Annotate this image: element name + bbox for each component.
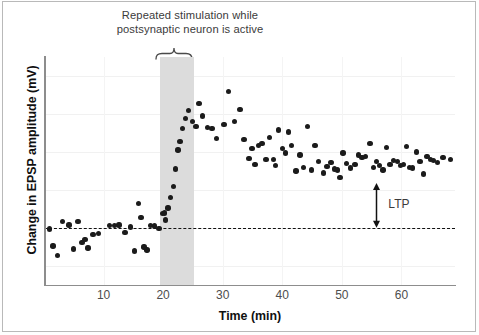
- stimulation-caption: Repeated stimulation while postsynaptic …: [60, 8, 320, 36]
- data-point: [226, 89, 231, 94]
- data-point: [259, 141, 264, 146]
- data-point: [401, 162, 406, 167]
- data-point: [47, 226, 52, 231]
- data-point: [263, 157, 268, 162]
- data-point: [246, 156, 251, 161]
- gridline-vertical: [342, 57, 343, 285]
- x-tick-label: 50: [325, 288, 359, 302]
- data-point: [267, 135, 272, 140]
- data-point: [196, 101, 201, 106]
- data-point: [293, 168, 298, 173]
- data-point: [305, 124, 310, 129]
- gridline-vertical: [104, 57, 105, 285]
- data-point: [340, 150, 345, 155]
- gridline-horizontal: [44, 152, 455, 153]
- data-point: [232, 119, 237, 124]
- data-point: [221, 122, 226, 127]
- data-point: [165, 205, 170, 210]
- data-point: [82, 237, 87, 242]
- data-point: [273, 163, 278, 168]
- data-point: [60, 219, 65, 224]
- data-point: [271, 157, 276, 162]
- data-point: [276, 127, 281, 132]
- data-point: [301, 165, 306, 170]
- data-point: [417, 159, 422, 164]
- data-point: [136, 201, 141, 206]
- baseline-dashed-line: [44, 228, 455, 229]
- x-tick-label: 30: [206, 288, 240, 302]
- data-point: [162, 210, 167, 215]
- data-point: [55, 253, 60, 258]
- data-point: [404, 144, 409, 149]
- data-point: [128, 224, 133, 229]
- data-point: [241, 137, 246, 142]
- data-point: [163, 217, 168, 222]
- data-point: [171, 184, 176, 189]
- data-point: [237, 107, 242, 112]
- data-point: [316, 159, 321, 164]
- data-point: [421, 171, 426, 176]
- gridline-horizontal: [44, 76, 455, 77]
- data-point: [440, 155, 445, 160]
- data-point: [50, 243, 55, 248]
- data-point: [193, 124, 198, 129]
- data-point: [138, 215, 143, 220]
- data-point: [337, 175, 342, 180]
- data-point: [321, 170, 326, 175]
- data-point: [249, 146, 254, 151]
- data-point: [177, 139, 182, 144]
- gridline-vertical: [282, 57, 283, 285]
- data-point: [335, 167, 340, 172]
- gridline-horizontal: [44, 114, 455, 115]
- data-point: [312, 143, 317, 148]
- data-point: [380, 167, 385, 172]
- data-point: [435, 160, 440, 165]
- data-point: [367, 141, 372, 146]
- data-point: [90, 232, 95, 237]
- x-axis-title: Time (min): [44, 309, 456, 323]
- data-point: [309, 167, 314, 172]
- data-point: [289, 143, 294, 148]
- ltp-arrow-icon: [370, 183, 383, 228]
- data-point: [410, 165, 415, 170]
- data-point: [371, 165, 376, 170]
- plot-area: [44, 57, 455, 285]
- data-point: [75, 219, 80, 224]
- ltp-label: LTP: [388, 197, 409, 211]
- data-point: [85, 245, 90, 250]
- gridline-horizontal: [44, 190, 455, 191]
- data-point: [71, 246, 76, 251]
- x-axis-line: [44, 285, 456, 287]
- y-axis-title: Change in EPSP amplitude (mV): [25, 40, 39, 280]
- data-point: [175, 147, 180, 152]
- data-point: [96, 231, 101, 236]
- data-point: [132, 248, 137, 253]
- data-point: [252, 162, 257, 167]
- data-point: [144, 247, 149, 252]
- x-tick-label: 60: [384, 288, 418, 302]
- data-point: [283, 150, 288, 155]
- data-point: [66, 222, 71, 227]
- data-point: [352, 162, 357, 167]
- x-tick-label: 40: [265, 288, 299, 302]
- data-point: [122, 230, 127, 235]
- data-point: [414, 149, 419, 154]
- y-axis-line: [44, 56, 46, 286]
- data-point: [200, 113, 205, 118]
- data-point: [328, 160, 333, 165]
- x-tick-label: 10: [87, 288, 121, 302]
- gridline-vertical: [401, 57, 402, 285]
- gridline-vertical: [223, 57, 224, 285]
- x-tick-label: 20: [146, 288, 180, 302]
- data-point: [363, 154, 368, 159]
- data-point: [448, 157, 453, 162]
- data-point: [297, 152, 302, 157]
- data-point: [286, 129, 291, 134]
- gridline-horizontal: [44, 266, 455, 267]
- data-point: [156, 226, 161, 231]
- data-point: [209, 126, 214, 131]
- data-point: [116, 222, 121, 227]
- data-point: [384, 145, 389, 150]
- data-point: [214, 136, 219, 141]
- ltp-figure: Repeated stimulation while postsynaptic …: [0, 0, 479, 335]
